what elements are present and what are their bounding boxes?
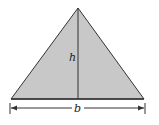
arrow-left-icon: [11, 106, 17, 111]
height-label: h: [69, 51, 76, 64]
triangle-diagram: h b: [0, 0, 159, 125]
base-label: b: [74, 102, 81, 115]
arrow-right-icon: [138, 106, 144, 111]
